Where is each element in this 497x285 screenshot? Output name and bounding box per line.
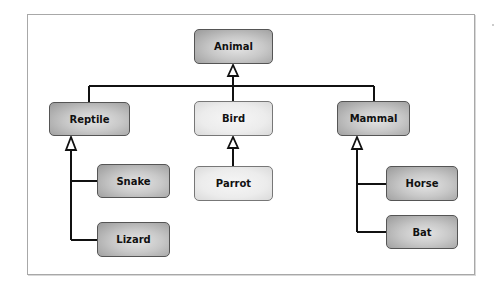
node-label: Bat <box>412 227 431 238</box>
node-label: Snake <box>116 176 150 187</box>
node-label: Lizard <box>116 234 150 245</box>
node-animal[interactable]: Animal <box>194 29 273 64</box>
node-label: Mammal <box>350 113 398 124</box>
node-parrot[interactable]: Parrot <box>194 166 273 201</box>
node-bird[interactable]: Bird <box>194 101 273 136</box>
arrowhead-icon <box>228 65 238 76</box>
arrowhead-icon <box>66 137 76 150</box>
node-label: Horse <box>406 178 439 189</box>
node-snake[interactable]: Snake <box>97 164 170 198</box>
stray-mark <box>492 24 494 26</box>
node-bat[interactable]: Bat <box>386 215 458 249</box>
node-mammal[interactable]: Mammal <box>337 101 410 136</box>
arrowhead-icon <box>352 137 362 149</box>
node-label: Animal <box>214 41 253 52</box>
node-label: Bird <box>222 113 245 124</box>
node-label: Parrot <box>216 178 251 189</box>
node-lizard[interactable]: Lizard <box>97 222 170 257</box>
arrowhead-icon <box>228 137 238 148</box>
node-reptile[interactable]: Reptile <box>49 102 130 136</box>
node-horse[interactable]: Horse <box>386 166 458 201</box>
node-label: Reptile <box>69 114 109 125</box>
